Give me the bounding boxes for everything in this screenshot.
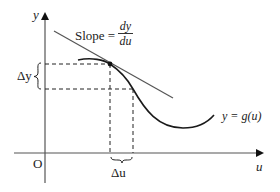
slope-denominator: du — [120, 35, 132, 47]
delta-u-brace — [111, 157, 132, 163]
x-axis-label: u — [256, 160, 263, 173]
slope-label-prefix: Slope = — [75, 29, 115, 42]
origin-label: O — [33, 157, 42, 170]
curve-g-of-u — [78, 59, 214, 128]
slope-numerator: dy — [120, 20, 131, 32]
curve-label: y = g(u) — [222, 110, 261, 122]
dashed-guides — [45, 64, 133, 153]
tangent-point — [108, 62, 113, 67]
y-axis-label: y — [33, 8, 39, 21]
slope-fraction: dy du — [118, 20, 133, 47]
delta-u-label: Δu — [111, 166, 126, 179]
derivative-diagram: y u O Slope = dy du Δy Δu y = g(u) — [0, 0, 280, 192]
delta-y-label: Δy — [17, 69, 32, 82]
delta-y-brace — [34, 63, 41, 89]
